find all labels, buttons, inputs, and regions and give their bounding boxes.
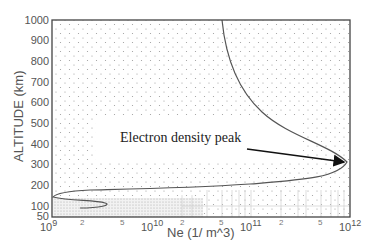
svg-text:900: 900 bbox=[31, 34, 49, 46]
svg-text:1010: 1010 bbox=[141, 218, 163, 233]
svg-text:200: 200 bbox=[31, 179, 49, 191]
svg-text:600: 600 bbox=[31, 96, 49, 108]
electron-density-chart: Electron density peak 1000 900 800 700 6… bbox=[0, 0, 377, 250]
svg-text:2: 2 bbox=[279, 218, 284, 227]
svg-text:5: 5 bbox=[318, 218, 323, 227]
svg-text:1011: 1011 bbox=[240, 218, 262, 233]
svg-text:2: 2 bbox=[80, 218, 85, 227]
svg-text:1000: 1000 bbox=[25, 14, 49, 26]
x-axis-title: Ne (1/ m^3) bbox=[167, 225, 235, 240]
y-axis-ticks: 1000 900 800 700 600 500 400 300 200 100… bbox=[25, 14, 49, 222]
y-axis-title: ALTITUDE (km) bbox=[11, 71, 26, 162]
svg-text:700: 700 bbox=[31, 76, 49, 88]
svg-text:400: 400 bbox=[31, 138, 49, 150]
low-density-region bbox=[53, 198, 203, 217]
svg-text:1012: 1012 bbox=[339, 218, 361, 233]
svg-text:300: 300 bbox=[31, 158, 49, 170]
svg-text:500: 500 bbox=[31, 117, 49, 129]
svg-text:5: 5 bbox=[120, 218, 125, 227]
annotation-text: Electron density peak bbox=[120, 130, 241, 145]
svg-text:800: 800 bbox=[31, 55, 49, 67]
svg-text:109: 109 bbox=[40, 218, 57, 233]
